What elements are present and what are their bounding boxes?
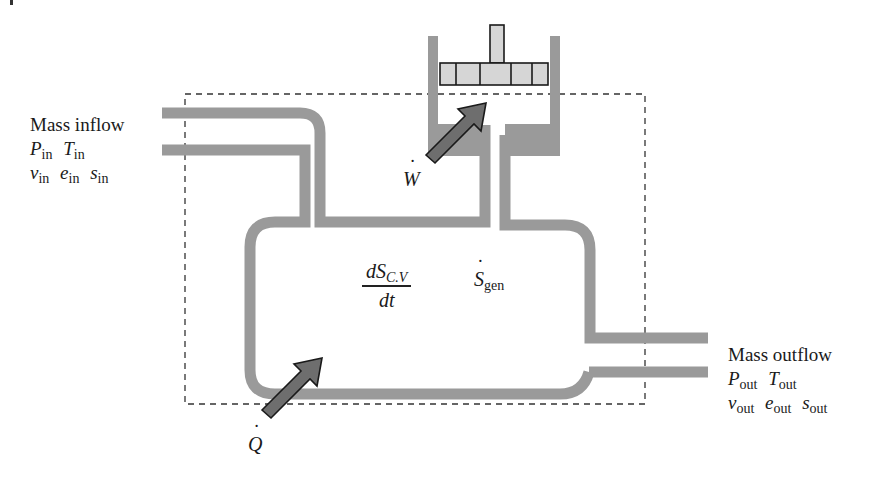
heat-rate-symbol: Q	[248, 432, 262, 456]
inflow-row-1: Pin Tin	[30, 137, 124, 161]
entropy-generation-label: Sgen	[474, 267, 504, 291]
inflow-title: Mass inflow	[30, 113, 124, 137]
outflow-energy: eout	[765, 392, 791, 413]
outflow-label-block: Mass outflow Pout Tout vout eout sout	[728, 343, 832, 415]
work-rate-label: W	[403, 167, 420, 191]
entropy-generation-sub: gen	[484, 278, 504, 293]
inflow-energy: ein	[60, 162, 79, 183]
outflow-entropy: sout	[802, 392, 827, 413]
piston	[440, 25, 548, 85]
inflow-label-block: Mass inflow Pin Tin vin ein sin	[30, 113, 124, 185]
inflow-row-2: vin ein sin	[30, 161, 124, 185]
heat-arrow-icon	[262, 358, 322, 418]
entropy-rate-numerator: dSC.V	[362, 260, 411, 287]
inlet-pipe-upper-wall	[162, 113, 345, 222]
outflow-row-1: Pout Tout	[728, 367, 832, 391]
entropy-rate-denominator: dt	[362, 287, 411, 312]
outflow-row-2: vout eout sout	[728, 391, 832, 415]
outflow-pressure: Pout	[728, 368, 758, 389]
corner-mark	[10, 0, 13, 5]
tank-right-wall	[505, 135, 708, 338]
heat-rate-label: Q	[248, 432, 262, 456]
entropy-generation-symbol: S	[474, 267, 484, 291]
inflow-velocity: vin	[30, 162, 49, 183]
outflow-velocity: vout	[728, 392, 754, 413]
inflow-temperature: Tin	[63, 138, 84, 159]
inflow-pressure: Pin	[30, 138, 53, 159]
outflow-title: Mass outflow	[728, 343, 832, 367]
entropy-rate-fraction: dSC.V dt	[362, 260, 411, 312]
outflow-temperature: Tout	[768, 368, 796, 389]
piston-rod	[490, 25, 504, 63]
cylinder-right-shoulder	[505, 124, 560, 156]
work-rate-symbol: W	[403, 167, 420, 191]
inflow-entropy: sin	[90, 162, 108, 183]
